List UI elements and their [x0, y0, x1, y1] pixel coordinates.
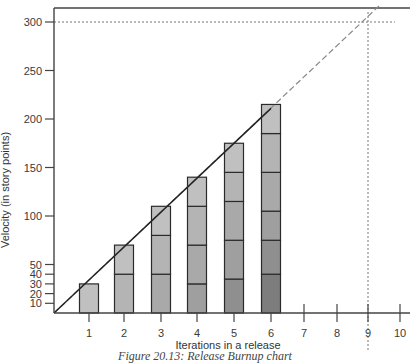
- x-tick-label: 3: [158, 327, 164, 339]
- y-tick-label: 100: [24, 210, 42, 222]
- x-tick-label: 4: [194, 327, 200, 339]
- x-tick-label: 7: [301, 327, 307, 339]
- x-tick-label: 8: [334, 327, 340, 339]
- y-tick-label: 200: [24, 113, 42, 125]
- bar-iteration-5: [225, 143, 244, 313]
- x-tick-label: 6: [268, 327, 274, 339]
- bar-segment: [152, 235, 171, 274]
- bar-iteration-4: [188, 177, 207, 313]
- bar-segment: [262, 240, 281, 274]
- y-axis-title: Velocity (in story points): [0, 132, 11, 248]
- y-tick-label: 300: [24, 16, 42, 28]
- bar-segment: [262, 172, 281, 211]
- x-tick-label: 2: [121, 327, 127, 339]
- bar-iteration-3: [152, 206, 171, 313]
- bar-segment: [188, 245, 207, 284]
- bar-series: [80, 104, 281, 313]
- bar-segment: [225, 143, 244, 172]
- bar-segment: [80, 284, 99, 313]
- x-tick-label: 1: [86, 327, 92, 339]
- bar-segment: [152, 274, 171, 313]
- bar-iteration-2: [115, 245, 134, 313]
- bar-segment: [225, 240, 244, 279]
- figure-caption: Figure 20.13: Release Burnup chart: [0, 349, 410, 364]
- bar-segment: [225, 172, 244, 201]
- bar-iteration-6: [262, 104, 281, 313]
- bar-segment: [115, 245, 134, 274]
- bar-segment: [262, 211, 281, 240]
- bar-segment: [188, 177, 207, 206]
- bar-segment: [152, 206, 171, 235]
- x-tick-label: 9: [365, 327, 371, 339]
- bar-iteration-1: [80, 284, 99, 313]
- bar-segment: [188, 206, 207, 245]
- trend-lines: [54, 5, 380, 313]
- bar-segment: [262, 134, 281, 173]
- y-tick-label: 150: [24, 162, 42, 174]
- bar-segment: [262, 274, 281, 313]
- x-tick-label: 5: [231, 327, 237, 339]
- bar-segment: [225, 279, 244, 313]
- bar-segment: [115, 274, 134, 313]
- y-tick-label: 50: [30, 259, 42, 271]
- bar-segment: [225, 201, 244, 240]
- bar-segment: [188, 284, 207, 313]
- y-tick-label: 250: [24, 65, 42, 77]
- x-tick-label: 10: [394, 327, 406, 339]
